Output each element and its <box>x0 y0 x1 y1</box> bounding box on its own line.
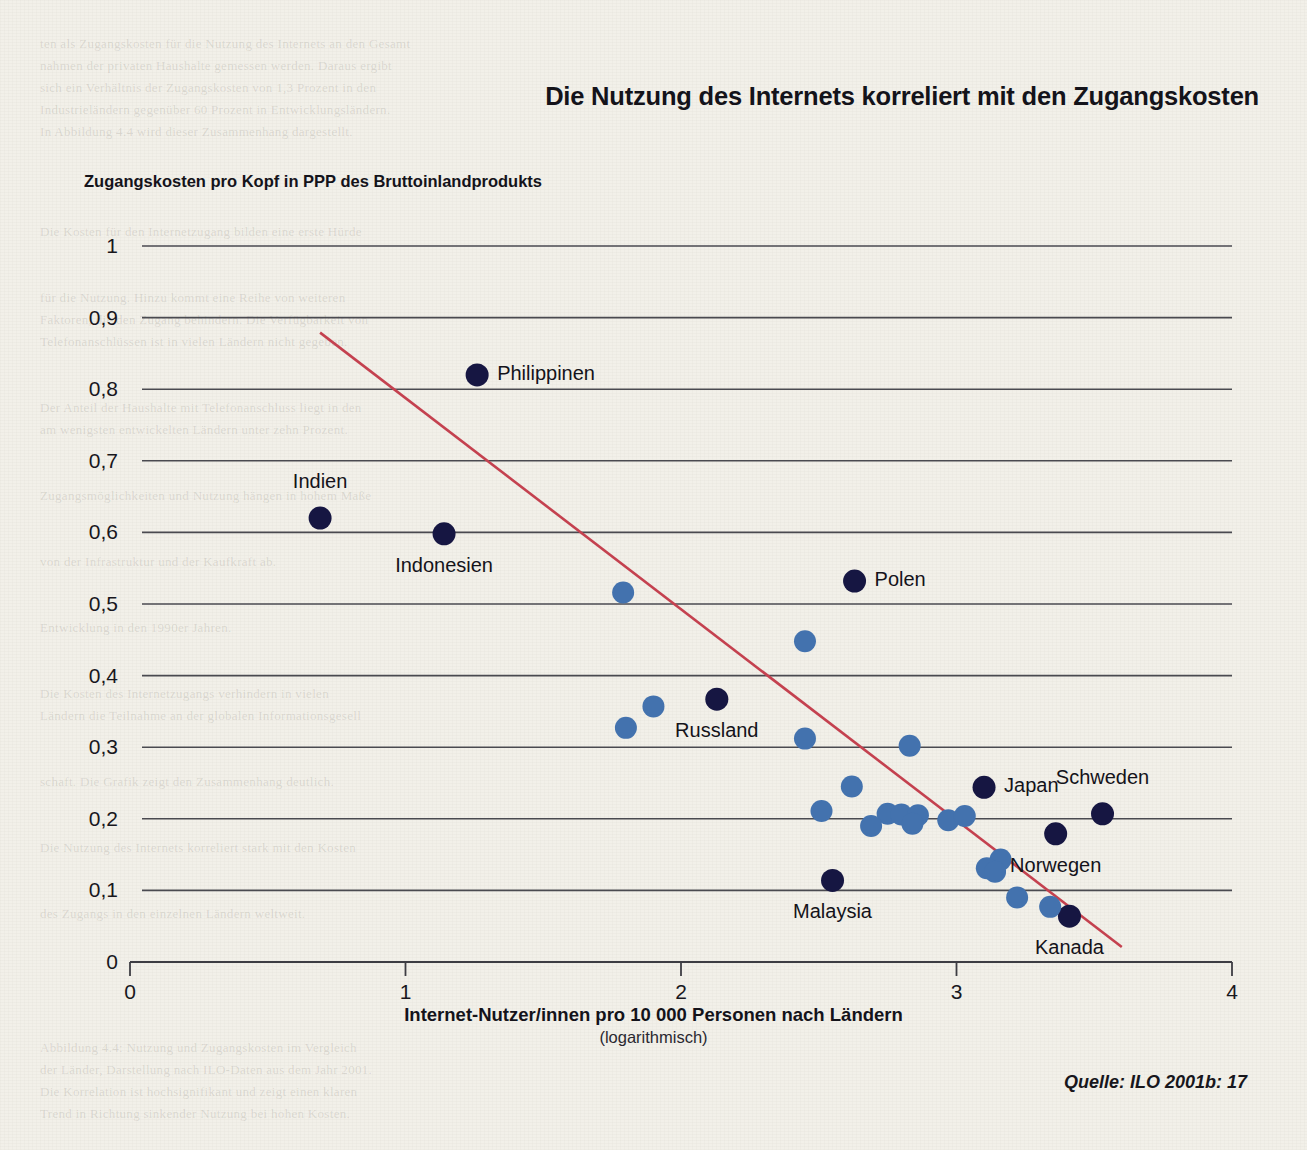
y-tick-label: 0,5 <box>60 592 118 616</box>
highlighted-data-point <box>973 776 996 799</box>
highlighted-data-point <box>705 688 728 711</box>
highlighted-data-point <box>1044 822 1067 845</box>
data-point <box>901 813 923 835</box>
highlighted-data-point <box>843 570 866 593</box>
x-tick-label: 0 <box>124 980 136 1004</box>
highlighted-data-point <box>1091 802 1114 825</box>
data-point-label: Malaysia <box>793 900 872 923</box>
data-point-label: Schweden <box>1056 766 1149 789</box>
highlighted-data-point <box>821 869 844 892</box>
data-point <box>954 805 976 827</box>
highlighted-data-point <box>309 507 332 530</box>
y-tick-label: 0,7 <box>60 449 118 473</box>
x-axis-title-sub: (logarithmisch) <box>274 1028 1034 1047</box>
data-point-label: Japan <box>1004 774 1059 797</box>
data-point-label: Polen <box>875 568 926 591</box>
data-point <box>984 861 1006 883</box>
y-tick-label: 0,8 <box>60 377 118 401</box>
data-point <box>1006 887 1028 909</box>
highlighted-data-point <box>1058 905 1081 928</box>
highlighted-data-point <box>466 363 489 386</box>
y-tick-label: 0,4 <box>60 664 118 688</box>
data-point-label: Indonesien <box>395 554 493 577</box>
data-point <box>615 717 637 739</box>
y-tick-label: 0,3 <box>60 735 118 759</box>
x-tick-label: 3 <box>951 980 963 1004</box>
highlighted-data-point <box>433 522 456 545</box>
chart-page: { "chart_data": { "type": "scatter", "ti… <box>0 0 1307 1150</box>
data-point <box>612 582 634 604</box>
data-markers <box>309 363 1114 927</box>
data-point-label: Russland <box>675 719 758 742</box>
x-tick-label: 2 <box>675 980 687 1004</box>
x-tick-label: 1 <box>400 980 412 1004</box>
x-axis-title: Internet-Nutzer/innen pro 10 000 Persone… <box>274 1004 1034 1047</box>
gridlines <box>142 246 1232 890</box>
data-point-label: Philippinen <box>497 362 595 385</box>
data-point-label: Indien <box>293 470 348 493</box>
x-axis-title-main: Internet-Nutzer/innen pro 10 000 Persone… <box>274 1004 1034 1026</box>
plot-area: 00,10,20,30,40,50,60,70,80,91 01234 Phil… <box>0 0 1307 1150</box>
x-tick-label: 4 <box>1226 980 1238 1004</box>
scatter-plot-svg <box>0 0 1307 1150</box>
data-point <box>642 695 664 717</box>
y-tick-label: 0,6 <box>60 520 118 544</box>
y-tick-label: 0,2 <box>60 807 118 831</box>
data-point <box>794 630 816 652</box>
data-point-label: Norwegen <box>1010 854 1101 877</box>
data-point <box>860 815 882 837</box>
data-point <box>811 800 833 822</box>
y-tick-label: 1 <box>60 234 118 258</box>
data-point <box>1039 896 1061 918</box>
axis-lines <box>130 962 1232 976</box>
data-point-label: Kanada <box>1035 936 1104 959</box>
y-tick-label: 0 <box>60 950 118 974</box>
data-point <box>794 728 816 750</box>
data-point <box>899 735 921 757</box>
y-tick-label: 0,9 <box>60 306 118 330</box>
data-point <box>841 776 863 798</box>
source-note: Quelle: ILO 2001b: 17 <box>1064 1072 1247 1093</box>
y-tick-label: 0,1 <box>60 878 118 902</box>
